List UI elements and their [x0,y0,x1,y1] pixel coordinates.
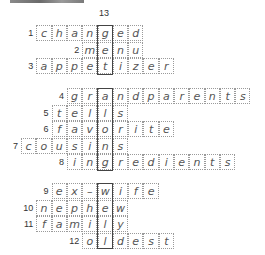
letter-cell[interactable]: i [128,121,143,137]
letter-cell[interactable]: f [52,121,67,137]
crossword-row: 1changed [0,25,265,41]
letter-cell[interactable]: i [159,154,174,170]
letter-cell[interactable]: h [52,25,67,41]
letter-cell[interactable]: n [36,200,51,216]
letter-cell[interactable]: d [128,25,143,41]
letter-cell[interactable]: o [98,121,113,137]
letter-cell[interactable]: p [52,58,67,74]
letter-cell[interactable]: i [67,154,82,170]
letter-cell[interactable]: z [128,58,143,74]
letter-cell[interactable]: – [82,183,97,199]
letter-cell[interactable]: l [98,105,113,121]
clue-number: 1 [17,25,33,41]
letter-cell[interactable]: r [113,154,128,170]
column-number-label: 13 [99,8,109,18]
letter-cell[interactable]: i [82,216,97,232]
letter-cell[interactable]: a [98,88,113,104]
letter-cell[interactable]: n [82,25,97,41]
letter-cell[interactable]: n [205,88,220,104]
crossword-row: 11family [0,216,265,232]
letter-cell[interactable]: l [98,233,113,249]
letter-cell[interactable]: o [82,233,97,249]
crossword-row: 6favorite [0,121,265,137]
letter-cell[interactable]: e [143,183,158,199]
letter-cell[interactable]: t [143,121,158,137]
letter-cell[interactable]: e [189,88,204,104]
letter-cell[interactable]: g [67,88,82,104]
letter-cell[interactable]: g [98,154,113,170]
letter-cell[interactable]: e [67,105,82,121]
letter-cell[interactable]: a [159,88,174,104]
letter-cell[interactable]: w [98,183,113,199]
header-bar [10,0,84,3]
letter-cell[interactable]: t [205,154,220,170]
letter-cell[interactable]: u [52,138,67,154]
letter-cell[interactable]: l [82,105,97,121]
letter-cell[interactable]: e [128,233,143,249]
letter-cell[interactable]: r [82,88,97,104]
letter-cell[interactable]: t [52,105,67,121]
letter-cell[interactable]: c [21,138,36,154]
letter-cell[interactable]: s [113,105,128,121]
crossword-row: 10nephew [0,200,265,216]
letter-cell[interactable]: a [67,121,82,137]
letter-cell[interactable]: s [113,138,128,154]
letter-cell[interactable]: e [143,58,158,74]
letter-cell[interactable]: e [82,58,97,74]
letter-cell[interactable]: x [67,183,82,199]
crossword-row: 8ingredients [0,154,265,170]
letter-cell[interactable]: d [128,88,143,104]
letter-cell[interactable]: i [113,183,128,199]
letter-cell[interactable]: v [82,121,97,137]
letter-cell[interactable]: h [82,200,97,216]
crossword-row: 12oldest [0,233,265,249]
letter-cell[interactable]: o [36,138,51,154]
letter-cell[interactable]: m [82,42,97,58]
letter-cell[interactable]: u [128,42,143,58]
letter-cell[interactable]: e [98,42,113,58]
clue-number: 3 [17,58,33,74]
letter-cell[interactable]: g [98,25,113,41]
letter-cell[interactable]: e [113,25,128,41]
letter-cell[interactable]: t [98,58,113,74]
letter-cell[interactable]: n [98,138,113,154]
letter-cell[interactable]: a [36,58,51,74]
letter-cell[interactable]: w [113,200,128,216]
letter-cell[interactable]: f [128,183,143,199]
letter-cell[interactable]: e [52,183,67,199]
letter-cell[interactable]: d [143,154,158,170]
letter-cell[interactable]: s [67,138,82,154]
letter-cell[interactable]: n [113,88,128,104]
letter-cell[interactable]: d [113,233,128,249]
letter-cell[interactable]: p [67,200,82,216]
letter-cell[interactable]: m [67,216,82,232]
letter-cell[interactable]: i [113,58,128,74]
letter-cell[interactable]: r [159,58,174,74]
letter-cell[interactable]: f [36,216,51,232]
letter-cell[interactable]: e [159,121,174,137]
clue-number: 9 [33,183,49,199]
letter-cell[interactable]: e [98,200,113,216]
letter-cell[interactable]: t [159,233,174,249]
letter-cell[interactable]: e [174,154,189,170]
letter-cell[interactable]: c [36,25,51,41]
letter-cell[interactable]: r [113,121,128,137]
letter-cell[interactable]: e [128,154,143,170]
letter-cell[interactable]: y [113,216,128,232]
letter-cell[interactable]: n [82,154,97,170]
letter-cell[interactable]: a [67,25,82,41]
crossword-row: 3appetizer [0,58,265,74]
letter-cell[interactable]: a [52,216,67,232]
letter-cell[interactable]: n [189,154,204,170]
letter-cell[interactable]: s [220,154,235,170]
letter-cell[interactable]: l [98,216,113,232]
letter-cell[interactable]: n [113,42,128,58]
letter-cell[interactable]: r [174,88,189,104]
letter-cell[interactable]: p [143,88,158,104]
letter-cell[interactable]: p [67,58,82,74]
letter-cell[interactable]: s [143,233,158,249]
letter-cell[interactable]: t [220,88,235,104]
letter-cell[interactable]: i [82,138,97,154]
letter-cell[interactable]: e [52,200,67,216]
letter-cell[interactable]: s [235,88,250,104]
